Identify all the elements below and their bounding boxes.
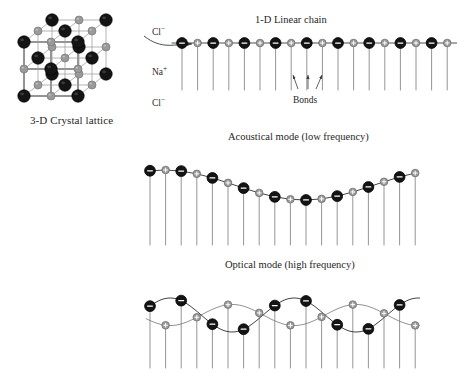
lattice-anion-cl [100, 68, 112, 80]
cation-na-node [162, 321, 170, 329]
anion-cl-node [301, 195, 312, 206]
cation-na-node [287, 322, 295, 330]
acoustic-mode-diagram [130, 148, 457, 253]
lattice-anion-cl [18, 36, 30, 48]
anion-cl-node [301, 38, 312, 49]
cation-na-node [318, 313, 326, 321]
label-chloride-bottom-base: Cl [152, 98, 161, 108]
anion-cl-node [269, 191, 280, 202]
anion-cl-node [238, 324, 249, 335]
cation-na-node [287, 39, 295, 47]
anion-cl-node [301, 296, 312, 307]
anion-cl-node [145, 165, 156, 176]
anion-cl-node [145, 301, 156, 312]
lattice-cation-na [88, 27, 96, 35]
cation-na-node [194, 39, 202, 47]
cation-na-node [287, 195, 295, 203]
anion-cl-node [364, 38, 375, 49]
lattice-cation-na [102, 43, 110, 51]
cation-na-node [162, 166, 170, 174]
cation-na-node [256, 39, 264, 47]
lattice-cation-na [74, 65, 82, 73]
crystal-lattice-caption: 3-D Crystal lattice [30, 114, 113, 126]
label-chloride-bottom: Cl− [152, 95, 165, 108]
anion-cl-node [394, 172, 405, 183]
lattice-cation-na [47, 92, 55, 100]
lattice-anion-cl [72, 36, 84, 48]
lattice-cation-na [47, 38, 55, 46]
anion-cl-node [426, 38, 437, 49]
cation-na-node [224, 179, 232, 187]
anion-cl-node [333, 38, 344, 49]
acoustic-ions [145, 165, 419, 205]
lattice-anion-cl [45, 63, 57, 75]
bonds-arrow-left [293, 75, 298, 89]
optical-mode-title: Optical mode (high frequency) [225, 259, 355, 270]
anion-cl-node [363, 182, 374, 193]
lattice-anion-cl [59, 79, 71, 91]
cation-na-node [349, 301, 357, 309]
figure-canvas: 3-D Crystal lattice Cl− Na+ Cl− 1-D Line… [0, 0, 457, 373]
cation-na-node [411, 169, 419, 177]
bonds-arrow-right [316, 75, 322, 89]
lattice-cation-na [88, 81, 96, 89]
anion-cl-node [332, 191, 343, 202]
anion-cl-node [395, 38, 406, 49]
cation-na-node [318, 195, 326, 203]
anion-cl-node [176, 166, 187, 177]
lattice-cation-na [61, 54, 69, 62]
lattice-anion-cl [72, 90, 84, 102]
cation-na-node [255, 309, 263, 317]
anion-cl-node [269, 300, 280, 311]
anion-cl-node [363, 323, 374, 334]
lattice-anion-cl [46, 14, 58, 26]
cation-na-node [380, 310, 388, 318]
cation-na-node [255, 189, 263, 197]
anion-cl-node [207, 173, 218, 184]
cation-na-node [193, 314, 201, 322]
anion-cl-node [176, 295, 187, 306]
anion-cl-node [270, 38, 281, 49]
lattice-cation-na [34, 81, 42, 89]
optical-anion-wave-path [146, 298, 420, 332]
optical-mode-diagram [130, 276, 457, 373]
anion-cl-node [177, 38, 188, 49]
cation-na-node [225, 39, 233, 47]
lattice-cation-na [75, 16, 83, 24]
acoustic-wave-path [150, 170, 415, 200]
cation-na-node [381, 39, 389, 47]
acoustic-stems [150, 170, 415, 245]
lattice-anion-cl [32, 52, 44, 64]
anion-cl-node [239, 38, 250, 49]
lattice-ions [18, 14, 112, 102]
lattice-cation-na [20, 65, 28, 73]
cation-na-node [193, 170, 201, 178]
cation-na-node [319, 39, 327, 47]
anion-cl-node [208, 38, 219, 49]
anion-cl-node [332, 319, 343, 330]
lattice-anion-cl [100, 14, 112, 26]
label-chloride-bottom-charge: − [161, 95, 165, 104]
cation-na-node [224, 301, 232, 309]
cation-na-node [350, 39, 358, 47]
cation-na-node [349, 188, 357, 196]
anion-cl-node [207, 319, 218, 330]
acoustic-mode-title: Acoustical mode (low frequency) [228, 131, 369, 142]
lattice-anion-cl [59, 25, 71, 37]
optical-stems [150, 301, 415, 368]
cation-na-node [411, 322, 419, 330]
bonds-label: Bonds [293, 95, 317, 105]
lattice-anion-cl [18, 90, 30, 102]
cation-na-node [412, 39, 420, 47]
cation-na-node [380, 178, 388, 186]
anion-cl-node [238, 183, 249, 194]
lattice-anion-cl [86, 52, 98, 64]
cation-na-node [443, 39, 451, 47]
bonds-arrows-icon [290, 70, 340, 94]
bonds-arrow-group [293, 75, 322, 89]
anion-cl-node [394, 300, 405, 311]
lattice-cation-na [34, 27, 42, 35]
